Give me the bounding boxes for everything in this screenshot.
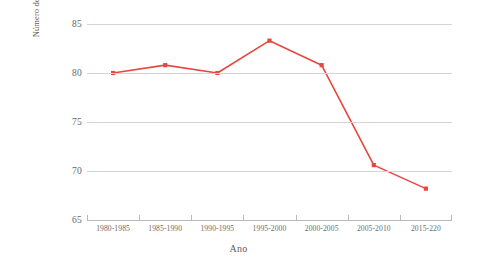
data-point-marker (320, 63, 324, 67)
x-axis-tick (296, 215, 297, 221)
x-axis-line (87, 220, 452, 221)
x-axis-tick (139, 215, 140, 221)
x-axis-tick (191, 215, 192, 221)
plot-area (87, 24, 452, 220)
x-axis-tick-label: 1995-2000 (253, 224, 287, 233)
data-point-marker (267, 39, 271, 43)
gridline (87, 122, 452, 123)
x-axis-tick (400, 215, 401, 221)
x-axis-tick (243, 215, 244, 221)
series-line (113, 41, 426, 189)
x-axis-title: Ano (0, 243, 477, 254)
y-axis-tick-label: 70 (52, 166, 82, 176)
data-point-marker (163, 63, 167, 67)
x-axis-right-stub (451, 215, 452, 221)
x-axis-tick-label: 2005-2010 (357, 224, 391, 233)
y-axis-tick-label: 85 (52, 19, 82, 29)
x-axis-tick-label: 1985-1990 (148, 224, 182, 233)
gridline (87, 24, 452, 25)
line-chart: Número de nascimentos a cada mil adolesc… (0, 0, 477, 267)
data-point-marker (372, 163, 376, 167)
y-axis-tick-labels: 6570758085 (52, 24, 82, 220)
gridline (87, 73, 452, 74)
x-axis-tick-label: 1990-1995 (200, 224, 234, 233)
y-axis-tick-label: 80 (52, 68, 82, 78)
gridline (87, 171, 452, 172)
x-axis-tick (348, 215, 349, 221)
x-axis-tick-label: 2000-2005 (305, 224, 339, 233)
x-axis-left-stub (87, 215, 88, 221)
y-axis-title-line1: Número de nascimentos a cada mil (31, 0, 41, 37)
x-axis-tick-label: 1980-1985 (96, 224, 130, 233)
y-axis-tick-label: 75 (52, 117, 82, 127)
y-axis-tick-label: 65 (52, 215, 82, 225)
x-axis-tick-label: 2015-220 (411, 224, 441, 233)
data-point-marker (424, 187, 428, 191)
